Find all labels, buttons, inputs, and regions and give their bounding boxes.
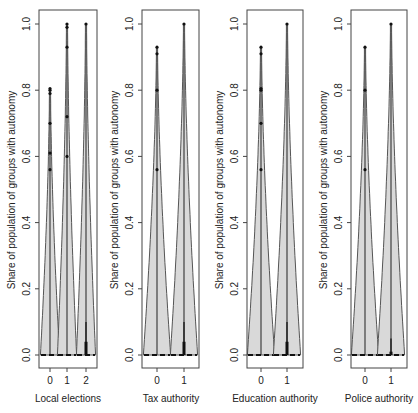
outlier-point (48, 168, 51, 171)
x-tick-label: 1 (284, 375, 290, 386)
outlier-point (48, 87, 51, 90)
y-tick-label: 0.2 (21, 281, 32, 295)
outlier-point (48, 92, 51, 95)
x-axis-label: Tax authority (143, 393, 200, 404)
y-tick-label: 0.8 (21, 83, 32, 97)
outlier-point (155, 89, 158, 92)
y-tick-label: 0.4 (333, 215, 344, 229)
y-tick-label: 0.0 (124, 348, 135, 362)
outlier-point (84, 22, 87, 25)
y-tick-label: 0.6 (124, 149, 135, 163)
y-tick-label: 0.6 (333, 149, 344, 163)
y-axis-label: Share of population of groups with auton… (214, 91, 225, 289)
outlier-point (389, 22, 392, 25)
y-axis-label: Share of population of groups with auton… (109, 91, 120, 289)
outlier-point (259, 87, 262, 90)
outlier-point (65, 115, 68, 118)
outlier-point (259, 52, 262, 55)
x-tick-label: 1 (64, 375, 70, 386)
y-tick-label: 0.0 (21, 348, 32, 362)
outlier-point (363, 89, 366, 92)
panel-2: 0.00.20.40.60.81.0Share of population of… (109, 10, 199, 404)
y-tick-label: 0.4 (21, 215, 32, 229)
outlier-point (48, 151, 51, 154)
outlier-point (48, 122, 51, 125)
x-tick-label: 1 (181, 375, 187, 386)
panel-1: 0.00.20.40.60.81.0Share of population of… (6, 10, 101, 404)
outlier-point (65, 155, 68, 158)
panel-3: 0.00.20.40.60.81.0Share of population of… (214, 10, 318, 404)
panel-4: 0.00.20.40.60.81.0Share of population of… (318, 10, 413, 404)
y-tick-label: 1.0 (333, 17, 344, 31)
y-tick-label: 0.2 (124, 281, 135, 295)
y-tick-label: 0.8 (229, 83, 240, 97)
outlier-point (65, 22, 68, 25)
x-tick-label: 0 (258, 375, 264, 386)
x-axis-label: Local elections (35, 393, 101, 404)
x-axis-label: Education authority (232, 393, 318, 404)
y-tick-label: 0.0 (229, 348, 240, 362)
outlier-point (65, 46, 68, 49)
x-axis-label: Police authority (345, 393, 413, 404)
x-tick-label: 0 (362, 375, 368, 386)
y-tick-label: 0.0 (333, 348, 344, 362)
x-tick-label: 0 (47, 375, 53, 386)
outlier-point (155, 52, 158, 55)
outlier-point (259, 46, 262, 49)
y-tick-label: 1.0 (124, 17, 135, 31)
outlier-point (259, 168, 262, 171)
outlier-point (182, 22, 185, 25)
outlier-point (155, 46, 158, 49)
outlier-point (155, 168, 158, 171)
y-tick-label: 1.0 (229, 17, 240, 31)
y-tick-label: 0.6 (229, 149, 240, 163)
y-axis-label: Share of population of groups with auton… (318, 91, 329, 289)
y-tick-label: 0.2 (229, 281, 240, 295)
y-tick-label: 0.8 (333, 83, 344, 97)
y-tick-label: 0.4 (229, 215, 240, 229)
y-axis-label: Share of population of groups with auton… (6, 91, 17, 289)
y-tick-label: 0.2 (333, 281, 344, 295)
violin-plots-svg: 0.00.20.40.60.81.0Share of population of… (0, 0, 418, 413)
outlier-point (259, 122, 262, 125)
x-tick-label: 0 (154, 375, 160, 386)
iqr-box (85, 342, 88, 355)
y-tick-label: 0.4 (124, 215, 135, 229)
violin-figure: 0.00.20.40.60.81.0Share of population of… (0, 0, 418, 413)
x-tick-label: 2 (83, 375, 89, 386)
y-tick-label: 1.0 (21, 17, 32, 31)
y-tick-label: 0.6 (21, 149, 32, 163)
outlier-point (65, 26, 68, 29)
iqr-box (286, 342, 289, 355)
y-tick-label: 0.8 (124, 83, 135, 97)
x-tick-label: 1 (388, 375, 394, 386)
outlier-point (363, 168, 366, 171)
outlier-point (285, 22, 288, 25)
iqr-box (183, 342, 186, 355)
outlier-point (363, 46, 366, 49)
